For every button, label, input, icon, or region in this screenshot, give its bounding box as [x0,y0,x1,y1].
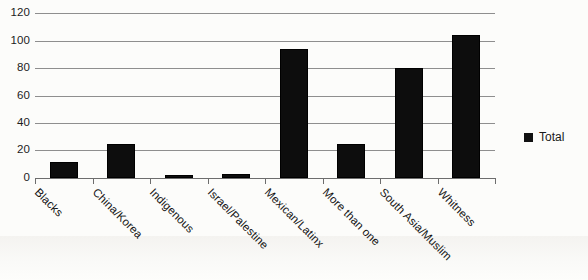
y-axis-tick-label-80: 80 [0,62,30,74]
x-axis-tick [93,178,94,184]
x-axis-category-labels: BlacksChina/KoreaIndigenousIsrael/Palest… [35,186,505,278]
bar [50,162,78,179]
y-axis-tick-label-20: 20 [0,145,30,157]
x-axis-tick [323,178,324,184]
bar-slot [380,13,438,178]
x-axis-tick [380,178,381,184]
x-axis-label-blacks: Blacks [33,186,66,219]
y-axis-tick-label-60: 60 [0,90,30,102]
bar [280,49,308,178]
x-axis-tick [495,178,496,184]
x-axis-label-whitness: Whitness [435,186,477,228]
x-axis-label-israel-palestine: Israel/Palestine [205,186,270,251]
bar-slot [208,13,266,178]
x-axis-ticks [35,178,495,184]
y-axis-tick-label-40: 40 [0,117,30,129]
y-axis-tick-label-0: 0 [0,172,30,184]
x-axis-tick [35,178,36,184]
chart-legend: Total [524,131,564,143]
x-axis-tick [208,178,209,184]
bar-slot [438,13,496,178]
bar-slot [323,13,381,178]
bar [337,144,365,178]
y-axis-tick-label-120: 120 [0,7,30,19]
bar [107,144,135,178]
plot-area [35,13,495,178]
bar [452,35,480,178]
legend-swatch-total [524,133,533,142]
bar-chart: 120 100 80 60 40 20 0 BlacksChina/KoreaI… [0,0,588,280]
legend-label-total: Total [539,131,564,143]
x-axis-label-china-korea: China/Korea [90,186,144,240]
x-axis-label-mexican-latinx: Mexican/Latinx [263,186,327,250]
bar-slot [93,13,151,178]
bar-slot [150,13,208,178]
x-axis-tick [150,178,151,184]
x-axis-tick [265,178,266,184]
y-axis-labels: 120 100 80 60 40 20 0 [0,13,30,178]
bar [395,68,423,178]
x-axis-tick [438,178,439,184]
x-axis-label-more-than-one: More than one [320,186,382,248]
x-axis-label-indigenous: Indigenous [148,186,197,235]
bars-layer [35,13,495,178]
y-axis-tick-label-100: 100 [0,35,30,47]
bar-slot [265,13,323,178]
bar-slot [35,13,93,178]
